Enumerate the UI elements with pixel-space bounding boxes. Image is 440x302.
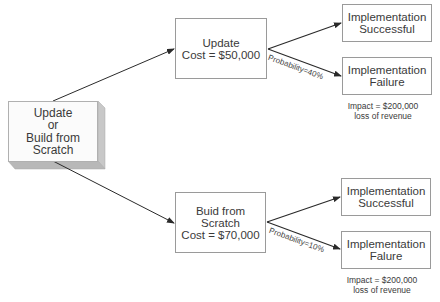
option-box-build: Buid from Scratch Cost = $70,000: [175, 192, 266, 253]
outcome-line-1: Implementation: [348, 11, 427, 23]
outcome-line-1: Implementation: [347, 185, 426, 197]
option-build-title: Buid from Scratch: [176, 205, 265, 229]
impact-note-build: Impact = $200,000 loss of revenue: [337, 275, 427, 295]
impact-line-2: loss of revenue: [338, 111, 428, 121]
edge-build-success: [267, 197, 340, 222]
root-line-3: Build from Scratch: [9, 132, 97, 157]
edge-update-success: [268, 23, 341, 49]
root-decision-box: Update or Build from Scratch: [8, 101, 98, 162]
outcome-line-2: Successful: [358, 197, 414, 209]
outcome-line-1: Implementation: [348, 64, 427, 76]
option-update-title: Update: [202, 37, 239, 49]
edge-root-build: [53, 161, 174, 223]
impact-line-1: Impact = $200,000: [338, 101, 428, 111]
outcome-box-build-success: Implementation Successful: [341, 178, 431, 216]
outcome-box-update-failure: Implementation Failure: [342, 57, 432, 95]
outcome-line-2: Successful: [359, 23, 415, 35]
edge-root-update: [53, 49, 174, 101]
option-build-cost: Cost = $70,000: [181, 229, 259, 241]
option-box-update: Update Cost = $50,000: [175, 18, 267, 79]
outcome-box-build-failure: Implementation Falure: [341, 231, 431, 269]
outcome-box-update-success: Implementation Successful: [342, 4, 432, 42]
impact-note-update: Impact = $200,000 loss of revenue: [338, 101, 428, 121]
impact-line-1: Impact = $200,000: [337, 275, 427, 285]
outcome-line-1: Implementation: [347, 238, 426, 250]
outcome-line-2: Failure: [369, 76, 404, 88]
option-update-cost: Cost = $50,000: [182, 49, 260, 61]
root-line-2: or: [48, 119, 59, 132]
impact-line-2: loss of revenue: [337, 285, 427, 295]
outcome-line-2: Falure: [370, 250, 403, 262]
